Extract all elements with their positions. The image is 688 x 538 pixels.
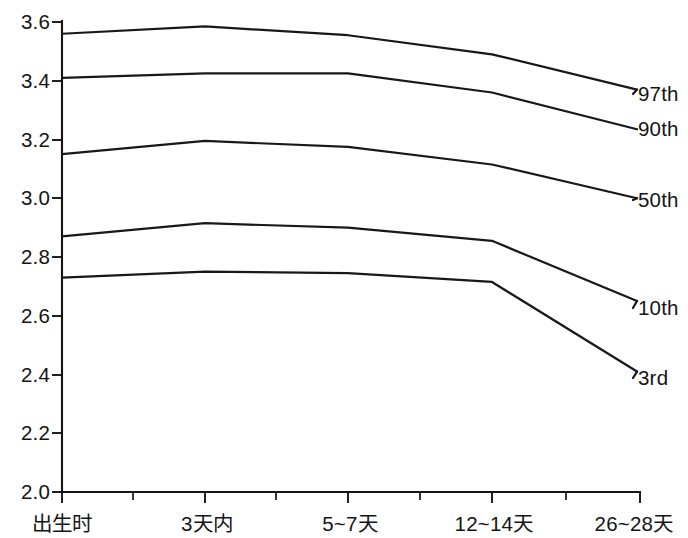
leader-line-97th xyxy=(633,90,637,94)
percentile-growth-chart: 3.6 3.4 3.2 3.0 2.8 2.6 2.4 2.2 2.0 出生时 … xyxy=(0,0,688,538)
x-tick-label-12-14-days: 12~14天 xyxy=(455,507,534,537)
series-label-97th: 97th xyxy=(638,82,679,106)
y-tick-label-3.4: 3.4 xyxy=(6,69,50,93)
series-label-10th: 10th xyxy=(638,296,679,320)
series-label-3rd: 3rd xyxy=(638,366,668,390)
y-tick-label-3.0: 3.0 xyxy=(6,186,50,210)
chart-canvas xyxy=(0,0,688,538)
y-tick-label-2.6: 2.6 xyxy=(6,304,50,328)
series-line-97th xyxy=(62,26,637,89)
series-line-10th xyxy=(62,223,637,301)
y-tick-label-3.2: 3.2 xyxy=(6,128,50,152)
y-tick-label-2.8: 2.8 xyxy=(6,245,50,269)
x-tick-label-5-7-days: 5~7天 xyxy=(322,507,378,537)
leader-line-3rd xyxy=(633,372,637,378)
y-tick-label-2.4: 2.4 xyxy=(6,363,50,387)
y-tick-label-2.2: 2.2 xyxy=(6,421,50,445)
series-label-50th: 50th xyxy=(638,188,679,212)
x-tick-marks xyxy=(62,492,640,503)
series-line-90th xyxy=(62,73,637,129)
x-tick-label-26-28-days: 26~28天 xyxy=(595,507,674,537)
series-layer xyxy=(62,26,637,371)
series-line-50th xyxy=(62,141,637,198)
y-tick-label-3.6: 3.6 xyxy=(6,10,50,34)
x-tick-label-within-3-days: 3天内 xyxy=(181,507,233,537)
series-line-3rd xyxy=(62,272,637,372)
y-tick-label-2.0: 2.0 xyxy=(6,480,50,504)
x-tick-label-birth: 出生时 xyxy=(32,507,93,537)
series-label-90th: 90th xyxy=(638,117,679,141)
axis-group xyxy=(62,21,640,492)
leader-line-layer xyxy=(633,90,637,378)
leader-line-10th xyxy=(633,301,637,308)
y-tick-marks xyxy=(52,22,62,492)
